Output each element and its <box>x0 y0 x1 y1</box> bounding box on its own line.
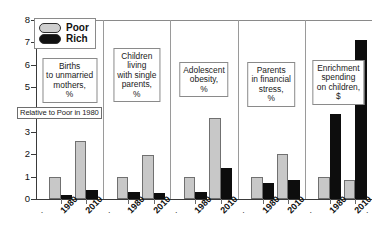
y-tick-label: 7 <box>0 37 30 46</box>
y-tick-label: 2 <box>0 149 30 158</box>
x-tick-minor: . <box>108 206 111 215</box>
panel-title: Childrenlivingwith singleparents,% <box>113 48 160 102</box>
panel-2: Childrenlivingwith singleparents,% <box>103 20 170 199</box>
panel-4: Parentsin financialstress,% <box>238 20 305 199</box>
legend-swatch-poor-icon <box>39 23 61 33</box>
y-tick-label: 3 <box>0 127 30 136</box>
bar-poor-1980 <box>49 177 61 199</box>
bar-group <box>103 20 170 199</box>
bar-poor-2010 <box>75 141 87 199</box>
x-tick-minor: . <box>175 206 178 215</box>
panel-title-line: % <box>46 90 93 99</box>
y-axis-label: Relative to Poor in 1980 <box>17 107 102 119</box>
small-multiples-bar-chart: 012345678 Birthsto unmarriedmothers,%Chi… <box>0 0 380 246</box>
bar-poor-2010 <box>209 118 221 199</box>
bar-poor-2010 <box>142 155 154 199</box>
legend-label-poor: Poor <box>66 23 89 33</box>
bar-poor-1980 <box>318 177 330 199</box>
bar-poor-1980 <box>251 177 263 199</box>
y-axis-label-line-1: Relative to <box>20 108 55 117</box>
bar-group <box>305 20 372 199</box>
y-axis-label-line-2: Poor in 1980 <box>57 108 99 117</box>
legend-swatch-rich-icon <box>39 34 61 44</box>
bar-poor-2010 <box>344 180 356 199</box>
bar-rich-1980 <box>330 114 342 199</box>
y-tick-mark <box>31 199 36 200</box>
panel-title: Parentsin financialstress,% <box>247 62 295 107</box>
bar-poor-1980 <box>184 177 196 199</box>
x-tick-minor: . <box>366 206 369 215</box>
panel-title: Enrichmentspendingon children,$ <box>313 60 364 105</box>
panel-title-line: % <box>117 90 156 99</box>
legend-label-rich: Rich <box>66 34 88 44</box>
y-tick-label: 0 <box>0 194 30 203</box>
panel-3: Adolescentobesity,% <box>170 20 237 199</box>
legend-item-rich: Rich <box>39 34 89 44</box>
x-tick-minor: . <box>310 206 313 215</box>
y-tick-label: 5 <box>0 82 30 91</box>
bar-group <box>170 20 237 199</box>
panel-5: Enrichmentspendingon children,$ <box>305 20 372 199</box>
legend: Poor Rich <box>34 18 96 49</box>
legend-item-poor: Poor <box>39 23 89 33</box>
panel-title-line: $ <box>317 92 360 101</box>
x-tick-minor: . <box>41 206 44 215</box>
bar-group <box>238 20 305 199</box>
x-tick-minor: . <box>242 206 245 215</box>
panel-title-line: % <box>183 85 224 94</box>
y-tick-label: 8 <box>0 15 30 24</box>
bar-poor-1980 <box>117 177 129 199</box>
y-tick-label: 6 <box>0 60 30 69</box>
y-tick-label: 1 <box>0 172 30 181</box>
bar-poor-2010 <box>277 154 289 199</box>
panel-title: Birthsto unmarriedmothers,% <box>42 58 97 103</box>
panel-title-line: % <box>251 94 291 103</box>
panel-title: Adolescentobesity,% <box>179 62 228 97</box>
